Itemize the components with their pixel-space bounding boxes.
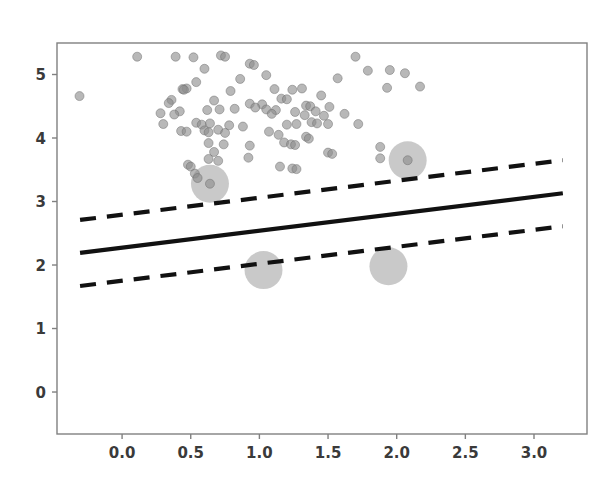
data-point [182, 127, 191, 136]
data-point [292, 120, 301, 129]
data-point [164, 99, 173, 108]
data-point [215, 105, 224, 114]
data-point [376, 142, 385, 151]
scatter-plot: 0.00.51.01.52.02.53.0 012345 [0, 0, 608, 483]
data-point [376, 154, 385, 163]
data-point [282, 120, 291, 129]
data-point [203, 106, 212, 115]
support-vector-core [403, 156, 412, 165]
data-point [204, 139, 213, 148]
data-point [324, 120, 333, 129]
data-point [313, 119, 322, 128]
data-point [75, 92, 84, 101]
data-point [200, 64, 209, 73]
data-point [171, 52, 180, 61]
data-point [325, 102, 334, 111]
x-tick-label: 0.5 [177, 444, 204, 462]
data-point [319, 111, 328, 120]
data-point [193, 174, 202, 183]
data-point [192, 78, 201, 87]
data-point [245, 141, 254, 150]
data-point [236, 74, 245, 83]
data-point [400, 69, 409, 78]
y-tick-label: 1 [36, 320, 46, 338]
data-point [204, 154, 213, 163]
support-vector-halo [369, 247, 407, 285]
x-tick-label: 2.0 [383, 444, 410, 462]
data-point [363, 66, 372, 75]
data-point [221, 52, 230, 61]
data-point [238, 122, 247, 131]
x-tick-label: 1.5 [315, 444, 342, 462]
data-point [156, 109, 165, 118]
y-tick-label: 2 [36, 257, 46, 275]
data-point [249, 60, 258, 69]
data-point [251, 103, 260, 112]
data-point [244, 153, 253, 162]
data-point [291, 107, 300, 116]
data-point [297, 84, 306, 93]
data-point [328, 149, 337, 158]
data-point [317, 91, 326, 100]
data-point [340, 109, 349, 118]
data-point [133, 52, 142, 61]
x-tick-label: 3.0 [521, 444, 548, 462]
y-tick-label: 4 [36, 130, 46, 148]
data-point [265, 127, 274, 136]
figure-background [0, 0, 608, 483]
data-point [230, 104, 239, 113]
data-point [274, 130, 283, 139]
support-vector-halo [245, 251, 283, 289]
x-tick-label: 0.0 [109, 444, 136, 462]
data-point [288, 85, 297, 94]
data-point [300, 111, 309, 120]
data-point [383, 83, 392, 92]
data-point [292, 165, 301, 174]
data-point [354, 120, 363, 129]
data-point [219, 140, 228, 149]
data-point [267, 109, 276, 118]
y-tick-label: 0 [36, 384, 46, 402]
data-point [179, 85, 188, 94]
data-point [385, 66, 394, 75]
data-point [221, 128, 230, 137]
data-point [291, 140, 300, 149]
data-point [282, 95, 291, 104]
x-tick-label: 2.5 [452, 444, 479, 462]
data-point [159, 120, 168, 129]
data-point [304, 134, 313, 143]
data-point [210, 96, 219, 105]
data-point [333, 74, 342, 83]
data-point [270, 85, 279, 94]
y-tick-label: 3 [36, 193, 46, 211]
data-point [275, 162, 284, 171]
data-point [189, 53, 198, 62]
data-point [262, 71, 271, 80]
y-tick-label: 5 [36, 66, 46, 84]
data-point [416, 82, 425, 91]
data-point [226, 87, 235, 96]
data-point [351, 52, 360, 61]
figure-container: 0.00.51.01.52.02.53.0 012345 [0, 0, 608, 483]
data-point [170, 110, 179, 119]
x-tick-label: 1.0 [246, 444, 273, 462]
data-point [311, 107, 320, 116]
data-point [214, 156, 223, 165]
data-point [204, 128, 213, 137]
support-vector-core [205, 179, 214, 188]
